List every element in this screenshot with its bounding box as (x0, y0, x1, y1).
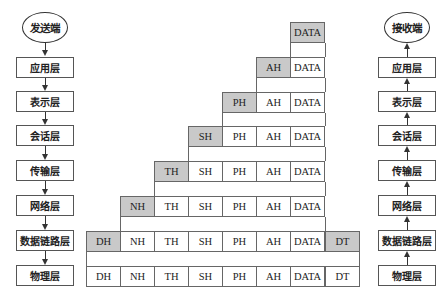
row-connector (120, 217, 326, 231)
arrow-up-icon (404, 251, 410, 257)
pdu-cell-ph: PH (222, 126, 257, 147)
arrow-up-icon (404, 216, 410, 222)
pdu-cell-data: DATA (290, 22, 325, 43)
pdu-cell-ah: AH (256, 57, 291, 78)
arrow-up-icon (404, 146, 410, 152)
arrow-line (45, 216, 46, 224)
sender-ellipse: 发送端 (22, 12, 68, 43)
pdu-cell-th: TH (154, 266, 189, 287)
pdu-cell-ah: AH (256, 266, 291, 287)
pdu-cell-data: DATA (290, 266, 325, 287)
row-connector (154, 182, 326, 196)
arrow-line (45, 181, 46, 189)
pdu-cell-sh: SH (188, 161, 223, 182)
receiver-ellipse: 接收端 (384, 12, 430, 43)
row-connector (256, 78, 326, 92)
arrow-up-icon (404, 43, 410, 49)
sender-layer-0: 应用层 (16, 57, 74, 78)
pdu-cell-ah: AH (256, 126, 291, 147)
pdu-cell-th: TH (154, 161, 189, 182)
arrow-line (407, 118, 408, 125)
arrow-line (45, 112, 46, 119)
arrow-up-icon (404, 181, 410, 187)
receiver-layer-4: 网络层 (378, 195, 436, 216)
pdu-cell-ph: PH (222, 266, 257, 287)
receiver-layer-2: 会话层 (378, 125, 436, 146)
pdu-cell-sh: SH (188, 231, 223, 252)
arrow-up-icon (404, 78, 410, 84)
arrow-line (45, 78, 46, 85)
pdu-cell-ph: PH (222, 161, 257, 182)
pdu-cell-th: TH (154, 196, 189, 217)
pdu-cell-dt: DT (325, 266, 360, 287)
receiver-layer-6: 物理层 (378, 265, 436, 286)
sender-layer-1: 表示层 (16, 91, 74, 112)
pdu-cell-dh: DH (86, 266, 121, 287)
pdu-cell-data: DATA (290, 196, 325, 217)
sender-layer-3: 传输层 (16, 160, 74, 181)
arrow-line (45, 251, 46, 259)
pdu-cell-ph: PH (222, 231, 257, 252)
pdu-cell-data: DATA (290, 92, 325, 113)
receiver-layer-0: 应用层 (378, 57, 436, 78)
receiver-layer-5: 数据链路层 (378, 230, 436, 251)
pdu-cell-nh: NH (120, 231, 155, 252)
arrow-line (407, 84, 408, 91)
pdu-cell-data: DATA (290, 126, 325, 147)
sender-layer-4: 网络层 (16, 195, 74, 216)
arrow-down-icon (42, 50, 48, 56)
arrow-line (407, 257, 408, 265)
arrow-line (407, 49, 408, 57)
pdu-cell-sh: SH (188, 196, 223, 217)
pdu-cell-data: DATA (290, 57, 325, 78)
pdu-cell-ph: PH (222, 196, 257, 217)
receiver-layer-3: 传输层 (378, 160, 436, 181)
arrow-line (407, 152, 408, 160)
pdu-cell-dt: DT (325, 231, 360, 252)
pdu-cell-data: DATA (290, 161, 325, 182)
pdu-cell-ah: AH (256, 196, 291, 217)
sender-layer-6: 物理层 (16, 265, 74, 286)
pdu-cell-ah: AH (256, 161, 291, 182)
pdu-cell-ah: AH (256, 92, 291, 113)
receiver-layer-1: 表示层 (378, 91, 436, 112)
arrow-line (407, 222, 408, 230)
pdu-cell-data: DATA (290, 231, 325, 252)
sender-layer-2: 会话层 (16, 125, 74, 146)
pdu-cell-ah: AH (256, 231, 291, 252)
arrow-up-icon (404, 112, 410, 118)
row-connector (86, 252, 360, 266)
pdu-cell-dh: DH (86, 231, 121, 252)
pdu-cell-th: TH (154, 231, 189, 252)
row-connector (188, 147, 326, 161)
pdu-cell-sh: SH (188, 126, 223, 147)
arrow-line (45, 146, 46, 154)
pdu-cell-nh: NH (120, 266, 155, 287)
arrow-line (407, 187, 408, 195)
sender-layer-5: 数据链路层 (16, 230, 74, 251)
row-connector (290, 43, 326, 57)
pdu-cell-sh: SH (188, 266, 223, 287)
pdu-cell-ph: PH (222, 92, 257, 113)
row-connector (222, 113, 326, 126)
pdu-cell-nh: NH (120, 196, 155, 217)
